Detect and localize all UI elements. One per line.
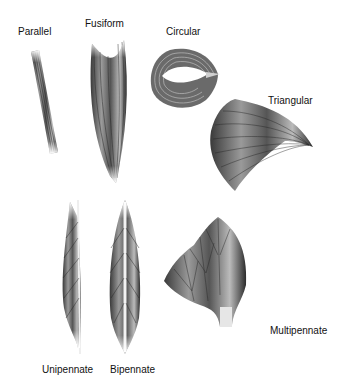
multipennate-muscle-illustration <box>160 215 260 340</box>
label-fusiform: Fusiform <box>85 18 124 29</box>
label-parallel: Parallel <box>18 26 51 37</box>
unipennate-muscle-illustration <box>58 198 88 358</box>
label-multipennate: Multipennate <box>270 325 327 336</box>
label-circular: Circular <box>166 26 200 37</box>
label-unipennate: Unipennate <box>42 364 93 375</box>
triangular-muscle-illustration <box>205 95 325 195</box>
bipennate-muscle-illustration <box>105 198 145 358</box>
fusiform-muscle-illustration <box>86 38 136 188</box>
parallel-muscle-illustration <box>28 48 64 158</box>
label-bipennate: Bipennate <box>110 364 155 375</box>
